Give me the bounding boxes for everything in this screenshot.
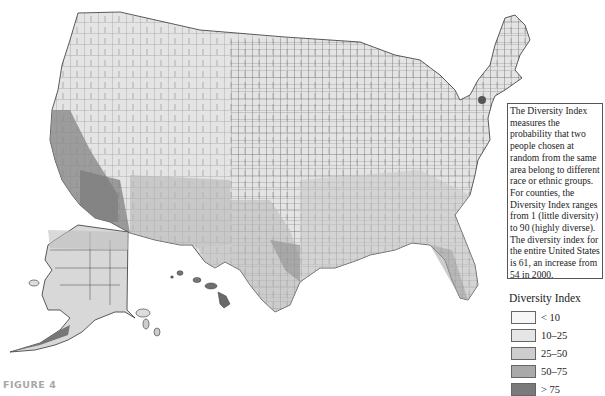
- legend-label: > 75: [541, 384, 560, 395]
- legend-label: 25–50: [541, 348, 567, 359]
- figure-label: FIGURE 4: [3, 379, 56, 390]
- alaska: [10, 225, 160, 352]
- legend-swatch: [511, 383, 536, 396]
- legend-title: Diversity Index: [509, 292, 605, 304]
- legend-swatch: [511, 329, 536, 342]
- legend-item: < 10: [509, 308, 605, 326]
- legend-label: 50–75: [541, 366, 567, 377]
- legend-item: 10–25: [509, 326, 605, 344]
- legend-item: > 75: [509, 380, 605, 396]
- legend-swatch: [511, 311, 536, 324]
- legend-item: 50–75: [509, 362, 605, 380]
- legend-swatch: [511, 365, 536, 378]
- legend-swatch: [511, 347, 536, 360]
- diversity-index-description: The Diversity Index measures the probabi…: [507, 103, 603, 279]
- hawaii: [170, 271, 230, 308]
- legend-label: 10–25: [541, 330, 567, 341]
- legend-label: < 10: [541, 312, 560, 323]
- legend: Diversity Index < 10 10–25 25–50 50–75 >…: [509, 292, 605, 396]
- description-text: The Diversity Index measures the probabi…: [510, 105, 600, 280]
- legend-item: 25–50: [509, 344, 605, 362]
